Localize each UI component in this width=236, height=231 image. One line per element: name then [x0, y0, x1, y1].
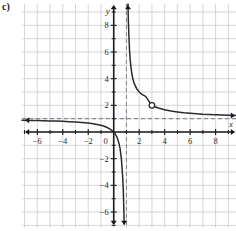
curve-branch	[128, 4, 236, 116]
curve-arrow-right	[231, 113, 235, 119]
x-axis-arrow-left	[25, 129, 29, 135]
x-tick-label: 0	[103, 136, 107, 146]
axes	[25, 5, 235, 225]
x-axis-name: x	[228, 119, 233, 129]
y-tick-label: −4	[100, 180, 110, 190]
part-label: c)	[2, 1, 10, 12]
x-tick-label: −4	[58, 136, 68, 146]
x-tick-label: −6	[33, 136, 42, 146]
y-tick-label: 6	[104, 47, 108, 57]
y-tick-label: 2	[104, 100, 108, 110]
x-tick-label: 8	[213, 136, 217, 146]
x-tick-label: 6	[188, 136, 192, 146]
x-axis-arrow-right	[231, 129, 235, 135]
y-tick-label: −2	[100, 154, 109, 164]
graph-figure: c) −6−4−202468−6−4−22468xy	[0, 0, 236, 231]
y-tick-label: 4	[104, 74, 109, 84]
y-tick-label: 8	[104, 20, 108, 30]
x-tick-label: 2	[137, 136, 141, 146]
curve-arrow-up	[125, 5, 131, 9]
hole-open-circle	[149, 103, 155, 109]
function-curve	[22, 4, 236, 224]
x-tick-label: 4	[163, 136, 168, 146]
x-tick-label: −2	[84, 136, 93, 146]
y-axis-arrow-down	[111, 221, 117, 225]
y-axis-name: y	[105, 6, 110, 16]
coordinate-plane: −6−4−202468−6−4−22468xy	[0, 0, 236, 231]
y-tick-label: −6	[100, 207, 109, 217]
holes	[149, 103, 155, 109]
y-axis-arrow-up	[111, 5, 117, 9]
